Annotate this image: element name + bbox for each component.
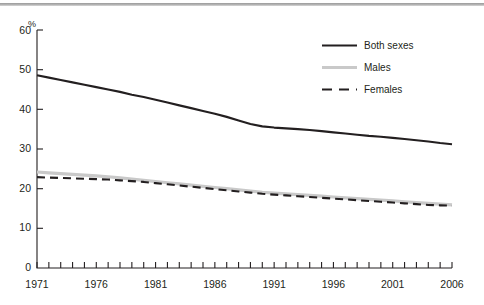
series-line-males [37, 172, 452, 205]
x-tick-1991: 1991 [262, 278, 286, 290]
y-tick-40: 40 [19, 103, 31, 115]
line-chart-figure: % 60 50 40 30 20 10 0 197119761981198619… [0, 0, 484, 305]
x-tick-1981: 1981 [144, 278, 168, 290]
y-axis-ticks [37, 30, 43, 228]
series-line-females [37, 177, 452, 206]
legend-label-both-sexes: Both sexes [364, 40, 413, 51]
x-tick-2001: 2001 [381, 278, 405, 290]
x-axis-tick-labels: 19711976198119861991199620012006 [25, 278, 464, 290]
x-tick-1971: 1971 [25, 278, 49, 290]
y-tick-50: 50 [19, 63, 31, 75]
chart-canvas: % 60 50 40 30 20 10 0 197119761981198619… [0, 0, 484, 305]
x-tick-1996: 1996 [322, 278, 346, 290]
x-tick-2006: 2006 [440, 278, 464, 290]
legend-label-males: Males [364, 62, 391, 73]
y-tick-60: 60 [19, 24, 31, 36]
chart-legend: Both sexes Males Females [322, 40, 413, 95]
y-axis-tick-labels: 60 50 40 30 20 10 0 [19, 24, 31, 273]
x-axis-ticks [37, 262, 452, 268]
x-tick-1986: 1986 [203, 278, 227, 290]
y-tick-30: 30 [19, 142, 31, 154]
y-tick-20: 20 [19, 182, 31, 194]
x-tick-1976: 1976 [85, 278, 109, 290]
y-tick-0: 0 [25, 261, 31, 273]
y-tick-10: 10 [19, 221, 31, 233]
legend-label-females: Females [364, 84, 402, 95]
